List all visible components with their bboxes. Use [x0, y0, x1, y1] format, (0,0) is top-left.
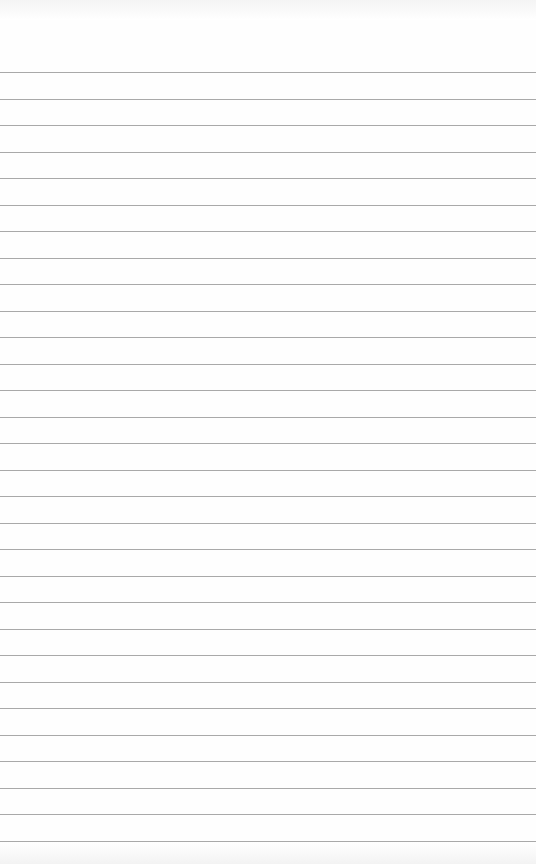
top-edge-shade — [0, 0, 536, 20]
ruled-line — [0, 629, 536, 630]
ruled-line — [0, 814, 536, 815]
ruled-line — [0, 761, 536, 762]
ruled-line — [0, 231, 536, 232]
ruled-line — [0, 682, 536, 683]
ruled-line — [0, 576, 536, 577]
ruled-line — [0, 735, 536, 736]
ruled-line — [0, 708, 536, 709]
ruled-line — [0, 152, 536, 153]
ruled-line — [0, 523, 536, 524]
ruled-line — [0, 284, 536, 285]
ruled-line — [0, 655, 536, 656]
ruled-line — [0, 549, 536, 550]
ruled-line — [0, 602, 536, 603]
ruled-line — [0, 496, 536, 497]
ruled-line — [0, 178, 536, 179]
ruled-line — [0, 364, 536, 365]
ruled-line — [0, 443, 536, 444]
ruled-line — [0, 125, 536, 126]
lined-paper-page — [0, 0, 536, 864]
ruled-line — [0, 470, 536, 471]
ruled-line — [0, 205, 536, 206]
bottom-edge-shade — [0, 842, 536, 864]
ruled-line — [0, 72, 536, 73]
ruled-line — [0, 258, 536, 259]
ruled-line — [0, 99, 536, 100]
ruled-line — [0, 417, 536, 418]
ruled-line — [0, 390, 536, 391]
ruled-line — [0, 337, 536, 338]
ruled-line — [0, 788, 536, 789]
ruled-line — [0, 311, 536, 312]
